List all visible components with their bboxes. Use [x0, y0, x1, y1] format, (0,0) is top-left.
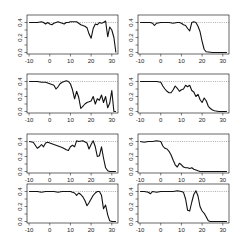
series-line — [29, 192, 116, 222]
y-tick-label: 0.0 — [128, 48, 134, 57]
series-line — [140, 22, 227, 53]
y-tick-label: 0.4 — [128, 18, 134, 27]
series-line — [140, 141, 227, 172]
y-tick-label: 0.4 — [128, 137, 134, 146]
plot-frame — [27, 134, 118, 173]
y-tick-label: 0.0 — [17, 48, 23, 57]
x-tick-label: 20 — [199, 227, 206, 233]
x-tick-label: 20 — [199, 58, 206, 64]
x-tick-label: -10 — [25, 227, 34, 233]
x-tick-label: 0 — [159, 117, 163, 123]
panel-r3c2: -1001020300.00.20.4 — [128, 134, 229, 183]
x-tick-label: -10 — [25, 177, 34, 183]
y-tick-label: 0.2 — [128, 92, 134, 101]
panel-r4c1: -1001020300.00.20.4 — [17, 184, 118, 233]
y-tick-label: 0.0 — [17, 217, 23, 226]
x-tick-label: 0 — [48, 117, 52, 123]
series-line — [29, 81, 116, 112]
panel-r1c2: -1001020300.00.20.4 — [128, 15, 229, 64]
x-tick-label: 30 — [219, 227, 226, 233]
x-tick-label: 30 — [219, 177, 226, 183]
x-tick-label: 30 — [108, 117, 115, 123]
x-tick-label: 10 — [67, 117, 74, 123]
panel-r3c1: -1001020300.00.20.4 — [17, 134, 118, 183]
x-tick-label: -10 — [136, 227, 145, 233]
x-tick-label: 30 — [108, 58, 115, 64]
x-tick-label: 0 — [159, 177, 163, 183]
panel-r2c2: -1001020300.00.20.4 — [128, 74, 229, 123]
x-tick-label: 20 — [88, 227, 95, 233]
y-tick-label: 0.4 — [128, 187, 134, 196]
x-tick-label: 0 — [48, 177, 52, 183]
x-tick-label: 30 — [108, 177, 115, 183]
plot-frame — [138, 15, 229, 54]
x-tick-label: -10 — [136, 177, 145, 183]
y-tick-label: 0.2 — [17, 92, 23, 101]
y-tick-label: 0.2 — [128, 202, 134, 211]
x-tick-label: 20 — [88, 117, 95, 123]
chart-figure: -1001020300.00.20.4-1001020300.00.20.4-1… — [0, 0, 243, 246]
x-tick-label: 10 — [178, 58, 185, 64]
x-tick-label: 20 — [88, 177, 95, 183]
x-tick-label: 0 — [159, 58, 163, 64]
y-tick-label: 0.0 — [128, 217, 134, 226]
panel-r1c1: -1001020300.00.20.4 — [17, 15, 118, 64]
plot-frame — [138, 74, 229, 113]
x-tick-label: 0 — [159, 227, 163, 233]
series-line — [140, 191, 227, 222]
x-tick-label: 20 — [199, 177, 206, 183]
series-line — [140, 82, 227, 112]
y-tick-label: 0.4 — [17, 77, 23, 86]
x-tick-label: 0 — [48, 58, 52, 64]
x-tick-label: 10 — [178, 177, 185, 183]
y-tick-label: 0.2 — [17, 152, 23, 161]
x-tick-label: 20 — [88, 58, 95, 64]
x-tick-label: 30 — [219, 58, 226, 64]
series-line — [29, 21, 116, 53]
x-tick-label: 10 — [67, 227, 74, 233]
plot-frame — [27, 184, 118, 223]
panel-r2c1: -1001020300.00.20.4 — [17, 74, 118, 123]
y-tick-label: 0.2 — [128, 33, 134, 42]
y-tick-label: 0.4 — [17, 18, 23, 27]
x-tick-label: 10 — [178, 227, 185, 233]
x-tick-label: 20 — [199, 117, 206, 123]
panel-r4c2: -1001020300.00.20.4 — [128, 184, 229, 233]
x-tick-label: -10 — [136, 58, 145, 64]
y-tick-label: 0.0 — [128, 107, 134, 116]
y-tick-label: 0.2 — [17, 33, 23, 42]
y-tick-label: 0.4 — [17, 187, 23, 196]
x-tick-label: 0 — [48, 227, 52, 233]
x-tick-label: 30 — [219, 117, 226, 123]
plot-frame — [27, 15, 118, 54]
y-tick-label: 0.2 — [128, 152, 134, 161]
x-tick-label: 10 — [178, 117, 185, 123]
y-tick-label: 0.2 — [17, 202, 23, 211]
x-tick-label: -10 — [25, 117, 34, 123]
plot-frame — [27, 74, 118, 113]
plot-frame — [138, 184, 229, 223]
x-tick-label: 30 — [108, 227, 115, 233]
y-tick-label: 0.4 — [17, 137, 23, 146]
y-tick-label: 0.0 — [17, 167, 23, 176]
series-line — [29, 141, 116, 172]
y-tick-label: 0.4 — [128, 77, 134, 86]
x-tick-label: -10 — [25, 58, 34, 64]
y-tick-label: 0.0 — [128, 167, 134, 176]
y-tick-label: 0.0 — [17, 107, 23, 116]
x-tick-label: 10 — [67, 177, 74, 183]
x-tick-label: 10 — [67, 58, 74, 64]
x-tick-label: -10 — [136, 117, 145, 123]
